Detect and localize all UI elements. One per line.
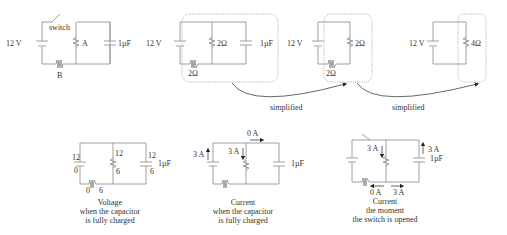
- highlight-box: [458, 14, 486, 82]
- caption-line: Current: [231, 198, 256, 207]
- circuit-simplified: 12 V 4Ω: [409, 14, 486, 82]
- voltage-label: 0: [74, 166, 78, 175]
- capacitor-label: 1µF: [260, 39, 274, 48]
- voltage-label: 12: [148, 151, 156, 160]
- caption-line: is fully charged: [85, 216, 135, 225]
- capacitor-label: 1µF: [430, 154, 444, 163]
- caption-line: when the capacitor: [80, 207, 141, 216]
- capacitor-label: 1µF: [118, 39, 132, 48]
- resistor-label: 4Ω: [471, 39, 481, 48]
- circuit-labeled: 12 V 2Ω 2Ω 1µF: [146, 14, 278, 82]
- caption-line: the moment: [366, 206, 405, 215]
- resistor-b-label: B: [57, 71, 62, 80]
- voltage-label: 6: [150, 167, 154, 176]
- simplified-arrow-1: simplified: [232, 83, 345, 112]
- voltage-label: 0: [86, 186, 90, 195]
- caption-line: the switch is opened: [352, 215, 417, 224]
- switch-open-icon: [362, 134, 370, 140]
- arrow-label: simplified: [270, 103, 302, 112]
- battery-label: 12 V: [146, 39, 162, 48]
- voltage-label: 6: [99, 186, 103, 195]
- current-label: 3 A: [367, 144, 379, 153]
- voltage-label: 6: [116, 167, 120, 176]
- resistor-b-icon: [56, 60, 63, 68]
- battery-label: 12 V: [6, 39, 22, 48]
- capacitor-label: 1µF: [158, 159, 172, 168]
- resistor-a-label: A: [82, 39, 88, 48]
- battery-label: 12 V: [409, 39, 425, 48]
- current-label: 0 A: [370, 188, 382, 197]
- switch-icon: [52, 14, 60, 22]
- resistor-parallel-label: 2Ω: [355, 39, 365, 48]
- battery-icon: [36, 41, 48, 46]
- current-label: 3 A: [228, 147, 240, 156]
- resistor-series-label: 2Ω: [188, 69, 198, 78]
- simplified-arrow-2: simplified: [357, 83, 477, 112]
- battery-label: 12 V: [287, 39, 303, 48]
- voltage-diagram: 12 0 12 6 12 6 1µF 0 6 Voltage when the …: [72, 143, 172, 225]
- caption-line: Current: [373, 197, 398, 206]
- current-label: 3 A: [193, 150, 205, 159]
- capacitor-label: 1µF: [291, 159, 305, 168]
- voltage-label: 12: [72, 153, 80, 162]
- current-label: 3 A: [393, 188, 405, 197]
- current-label: 3 A: [428, 145, 440, 154]
- circuit-diagram: 12 V switch A B 1µF 12 V 2Ω 2Ω 1µF 12 V …: [0, 0, 507, 235]
- current-opened-diagram: 3 A 3 A 1µF 0 A 3 A Current the moment t…: [346, 134, 444, 224]
- caption-line: Voltage: [98, 198, 123, 207]
- voltage-label: 12: [115, 149, 123, 158]
- resistor-series-label: 2Ω: [326, 69, 336, 78]
- circuit-no-capacitor: 12 V 2Ω 2Ω: [287, 14, 372, 82]
- current-charged-diagram: 3 A 3 A 0 A 1µF Current when the capacit…: [193, 129, 305, 225]
- circuit-original: 12 V switch A B 1µF: [6, 14, 132, 80]
- resistor-parallel-label: 2Ω: [217, 39, 227, 48]
- caption-line: is fully charged: [218, 216, 268, 225]
- switch-label: switch: [49, 23, 70, 32]
- arrow-label: simplified: [392, 103, 424, 112]
- caption-line: when the capacitor: [213, 207, 274, 216]
- current-label: 0 A: [247, 129, 259, 138]
